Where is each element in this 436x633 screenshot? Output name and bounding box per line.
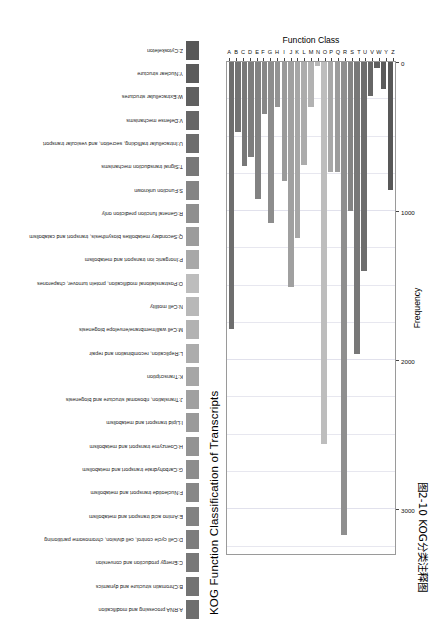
category-tick-C: C bbox=[240, 45, 246, 61]
legend-item-label: H:Coenzyme transport and metabolism bbox=[15, 443, 183, 450]
category-tick-S: S bbox=[349, 45, 355, 61]
bar-J bbox=[288, 62, 294, 287]
legend-row: A:RNA processing and modificationB:Chrom… bbox=[14, 39, 200, 621]
bar-slot-T bbox=[354, 62, 360, 554]
category-tick-N: N bbox=[315, 45, 321, 61]
bar-slot-E bbox=[255, 62, 261, 554]
value-tick bbox=[396, 360, 399, 361]
legend-swatch-T bbox=[185, 156, 200, 177]
legend-item-label: C:Energy production and conversion bbox=[15, 559, 183, 566]
bar-F bbox=[262, 62, 268, 114]
bar-C bbox=[242, 62, 248, 166]
legend-swatch-F bbox=[185, 482, 200, 503]
legend-item-label: T:Signal transduction mechanisms bbox=[15, 163, 183, 170]
bar-slot-I bbox=[282, 62, 288, 554]
legend-item-F: F:Nucleotide transport and metabolism bbox=[14, 481, 200, 504]
legend-item-label: S:Function unknown bbox=[15, 187, 183, 194]
bar-O bbox=[321, 62, 327, 444]
legend-item-label: E:Amino acid transport and metabolism bbox=[15, 513, 183, 520]
legend-swatch-U bbox=[185, 133, 200, 154]
value-tick bbox=[396, 62, 399, 63]
category-tick-W: W bbox=[376, 45, 382, 61]
legend-item-label: L:Replication, recombination and repair bbox=[15, 350, 183, 357]
legend-item-label: Q:Secondary metabolites biosynthesis, tr… bbox=[15, 233, 183, 240]
category-axis-title-text: Function Class bbox=[283, 35, 340, 45]
bar-M bbox=[308, 62, 314, 107]
bar-slot-O bbox=[321, 62, 327, 554]
legend-item-label: B:Chromatin structure and dynamics bbox=[15, 583, 183, 590]
legend-swatch-W bbox=[185, 86, 200, 107]
legend-item-Z: Z:Cytoskeleton bbox=[14, 39, 200, 62]
bar-D bbox=[248, 62, 254, 157]
bar-slot-V bbox=[368, 62, 374, 554]
bar-slot-R bbox=[341, 62, 347, 554]
legend-item-A: A:RNA processing and modification bbox=[14, 598, 200, 621]
legend-item-H: H:Coenzyme transport and metabolism bbox=[14, 435, 200, 458]
legend-swatch-L bbox=[185, 343, 200, 364]
bar-Z bbox=[388, 62, 394, 190]
bar-slot-A bbox=[229, 62, 235, 554]
bar-T bbox=[354, 62, 360, 354]
legend-item-U: U:Intracellular trafficking, secretion, … bbox=[14, 132, 200, 155]
legend-item-label: R:General function prediction only bbox=[15, 210, 183, 217]
bar-K bbox=[295, 62, 301, 238]
bar-slot-D bbox=[248, 62, 254, 554]
legend-swatch-S bbox=[185, 180, 200, 201]
figure-rotated-canvas: A:RNA processing and modificationB:Chrom… bbox=[0, 0, 436, 633]
bar-L bbox=[301, 62, 307, 165]
bar-slot-Q bbox=[335, 62, 341, 554]
legend-item-label: M:Cell wall/membrane/envelope biogenesis bbox=[15, 326, 183, 333]
category-tick-label: Z bbox=[389, 49, 397, 55]
bar-slot-U bbox=[361, 62, 367, 554]
legend-item-label: I:Lipid transport and metabolism bbox=[15, 419, 183, 426]
legend-item-R: R:General function prediction only bbox=[14, 202, 200, 225]
plot-wrapper: KOG Function Classification of Transcrip… bbox=[206, 0, 430, 633]
legend-item-label: A:RNA processing and modification bbox=[15, 606, 183, 613]
category-tick-Z: Z bbox=[390, 45, 396, 61]
legend-item-label: K:Transcription bbox=[15, 373, 183, 380]
legend-swatch-P bbox=[185, 249, 200, 270]
legend-swatch-O bbox=[185, 273, 200, 294]
bar-G bbox=[268, 62, 274, 223]
bar-series bbox=[227, 62, 395, 554]
bar-slot-S bbox=[348, 62, 354, 554]
bar-slot-G bbox=[268, 62, 274, 554]
bar-Q bbox=[335, 62, 341, 172]
legend-item-label: N:Cell motility bbox=[15, 303, 183, 310]
legend-item-label: U:Intracellular trafficking, secretion, … bbox=[15, 140, 183, 147]
legend-swatch-C bbox=[185, 552, 200, 573]
legend-item-label: P:Inorganic ion transport and metabolism bbox=[15, 256, 183, 263]
figure-caption-text: 图2-10 KOG分类注释图 bbox=[416, 482, 431, 592]
legend-swatch-I bbox=[185, 412, 200, 433]
bar-slot-N bbox=[315, 62, 321, 554]
legend-swatch-Q bbox=[185, 226, 200, 247]
legend-item-K: K:Transcription bbox=[14, 365, 200, 388]
legend-item-label: F:Nucleotide transport and metabolism bbox=[15, 489, 183, 496]
bar-S bbox=[348, 62, 354, 211]
bar-slot-F bbox=[262, 62, 268, 554]
bar-slot-B bbox=[235, 62, 241, 554]
bar-slot-W bbox=[374, 62, 380, 554]
bar-slot-K bbox=[295, 62, 301, 554]
legend-item-J: J:Translation, ribosomal structure and b… bbox=[14, 388, 200, 411]
legend-item-B: B:Chromatin structure and dynamics bbox=[14, 574, 200, 597]
bar-R bbox=[341, 62, 347, 535]
category-axis: ABCDEFGHIJKLMNOPQRSTUVWYZ bbox=[226, 45, 396, 61]
value-tick-label: 0 bbox=[401, 60, 404, 67]
legend: A:RNA processing and modificationB:Chrom… bbox=[14, 13, 200, 621]
category-tick-Y: Y bbox=[383, 45, 389, 61]
legend-item-C: C:Energy production and conversion bbox=[14, 551, 200, 574]
legend-swatch-E bbox=[185, 506, 200, 527]
bar-slot-M bbox=[308, 62, 314, 554]
figure-inner: A:RNA processing and modificationB:Chrom… bbox=[0, 0, 436, 633]
legend-swatch-K bbox=[185, 366, 200, 387]
legend-swatch-Y bbox=[185, 63, 200, 84]
legend-item-label: V:Defense mechanisms bbox=[15, 117, 183, 124]
legend-item-T: T:Signal transduction mechanisms bbox=[14, 155, 200, 178]
category-tick-H: H bbox=[274, 45, 280, 61]
bar-slot-C bbox=[242, 62, 248, 554]
bar-slot-J bbox=[288, 62, 294, 554]
category-tick-M: M bbox=[308, 45, 314, 61]
bar-V bbox=[368, 62, 374, 96]
bar-W bbox=[374, 62, 380, 68]
